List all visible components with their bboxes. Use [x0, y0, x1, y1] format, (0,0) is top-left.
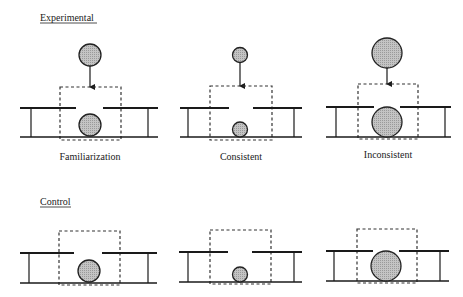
- caption-consistent: Consistent: [220, 151, 262, 162]
- ball-medium: [78, 260, 100, 282]
- ball-large: [372, 107, 402, 137]
- experiment-diagram: Experimental Control Familiarization Con…: [0, 0, 463, 297]
- ball-small: [233, 122, 248, 137]
- panel-inconsistent: Inconsistent: [326, 38, 451, 160]
- row-label-experimental: Experimental: [40, 12, 94, 23]
- ball-large: [371, 251, 401, 281]
- control-panel-large: [326, 229, 449, 283]
- dropped-ball-small: [233, 48, 248, 63]
- panel-consistent: Consistent: [180, 48, 302, 163]
- caption-inconsistent: Inconsistent: [364, 149, 413, 160]
- dropped-ball-medium: [79, 44, 101, 66]
- dropped-ball-large: [372, 38, 402, 68]
- control-panel-small: [179, 230, 302, 284]
- panel-familiarization: Familiarization: [20, 44, 158, 162]
- ball-small: [233, 267, 248, 282]
- control-panel-medium: [20, 231, 157, 285]
- ball-medium: [79, 114, 101, 136]
- caption-familiarization: Familiarization: [59, 151, 120, 162]
- row-label-control: Control: [40, 196, 71, 207]
